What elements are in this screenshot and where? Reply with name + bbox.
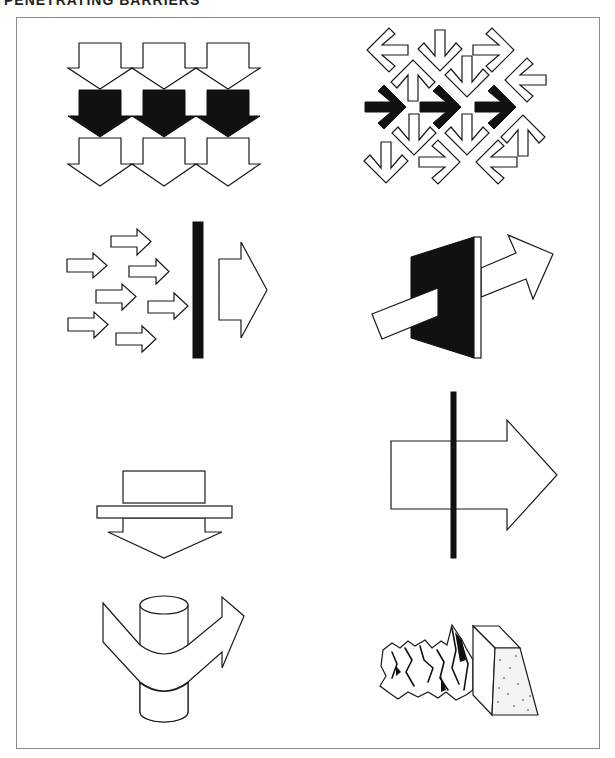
black-arrows-row <box>365 85 516 129</box>
arrow-row-top <box>68 43 260 89</box>
figure-stacked-down-arrows <box>68 43 260 186</box>
figure-arrow-through-rod <box>391 392 557 558</box>
figure-chevron-arrow-field <box>364 28 546 184</box>
figure-crumpled-against-block <box>380 625 538 715</box>
barrier <box>193 222 203 358</box>
rod <box>451 392 456 558</box>
figure-scattered-arrows-to-one <box>67 222 267 358</box>
arrow-row-middle-black <box>68 90 260 137</box>
illustration-canvas <box>0 0 615 758</box>
figure-press-down <box>97 471 232 558</box>
figure-arrow-through-wall <box>372 235 553 358</box>
arrow-row-bottom <box>68 138 260 186</box>
figure-arrow-wrapping-cylinder <box>103 596 244 722</box>
